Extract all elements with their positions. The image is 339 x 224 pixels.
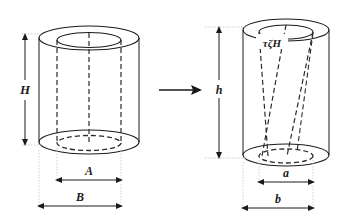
right-twist-label: τζH — [263, 37, 282, 50]
right-height-label: h — [216, 83, 223, 97]
left-height-label: H — [19, 82, 31, 97]
left-outer-diameter-label: B — [75, 190, 84, 204]
cylinder-deformation-figure: H A B — [0, 0, 339, 224]
right-outer-diameter-label: b — [275, 192, 281, 206]
right-inner-diameter-label: a — [283, 166, 289, 180]
figure-background — [0, 0, 339, 224]
left-inner-diameter-label: A — [84, 164, 93, 178]
